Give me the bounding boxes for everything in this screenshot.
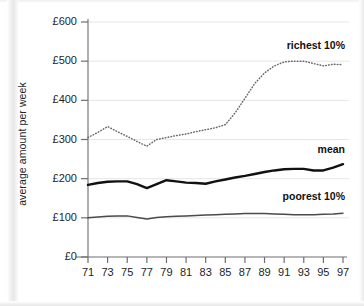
y-tick-label: £0 bbox=[31, 250, 77, 262]
y-tick-label: £100 bbox=[31, 211, 77, 223]
series-label-richest-10-: richest 10% bbox=[0, 39, 345, 51]
line-chart: average amount per week £0£100£200£300£4… bbox=[0, 0, 364, 306]
y-tick-label: £600 bbox=[31, 15, 77, 27]
y-tick-label: £400 bbox=[31, 93, 77, 105]
series-line-mean bbox=[88, 164, 343, 188]
series-line-richest-10- bbox=[88, 61, 343, 146]
x-tick-label: 97 bbox=[332, 266, 354, 278]
y-tick-label: £200 bbox=[31, 172, 77, 184]
chart-page: average amount per week £0£100£200£300£4… bbox=[0, 0, 364, 306]
series-label-poorest-10-: poorest 10% bbox=[0, 190, 345, 202]
series-label-mean: mean bbox=[0, 143, 345, 155]
y-tick-label: £500 bbox=[31, 54, 77, 66]
